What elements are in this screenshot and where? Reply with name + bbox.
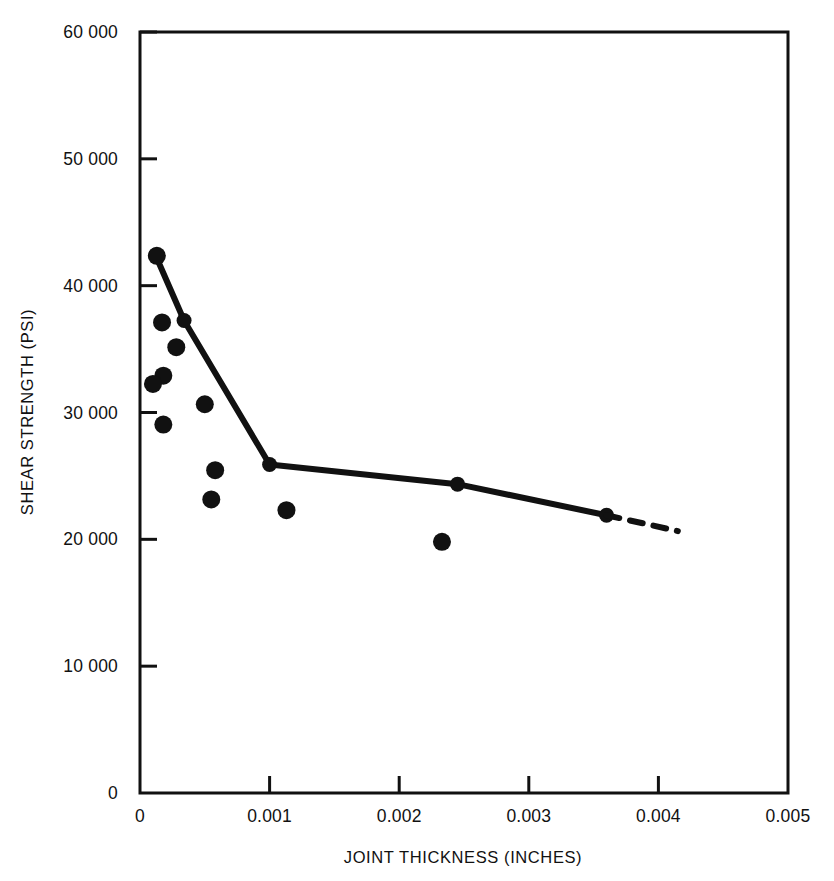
y-axis-title: SHEAR STRENGTH (PSI) bbox=[18, 309, 36, 515]
x-tick-label: 0.004 bbox=[636, 806, 681, 826]
shear-strength-vs-joint-thickness-chart: 010 00020 00030 00040 00050 00060 000 00… bbox=[0, 0, 834, 881]
data-point-marker bbox=[144, 375, 162, 393]
y-tick-label: 0 bbox=[108, 783, 118, 803]
y-tick-label: 20 000 bbox=[63, 529, 118, 549]
x-tick-label: 0.001 bbox=[247, 806, 292, 826]
data-point-marker bbox=[277, 501, 295, 519]
x-tick-label: 0 bbox=[135, 806, 145, 826]
x-tick-label: 0.005 bbox=[766, 806, 811, 826]
y-tick-label: 50 000 bbox=[63, 149, 118, 169]
data-point-marker bbox=[202, 490, 220, 508]
y-tick-label: 10 000 bbox=[63, 656, 118, 676]
data-point-marker bbox=[153, 313, 171, 331]
y-tick-label: 60 000 bbox=[63, 22, 118, 42]
x-tick-label: 0.003 bbox=[506, 806, 551, 826]
data-point-marker bbox=[206, 461, 224, 479]
x-tick-label: 0.002 bbox=[377, 806, 422, 826]
y-tick-label: 40 000 bbox=[63, 276, 118, 296]
data-point-marker bbox=[148, 247, 166, 265]
trend-vertex-marker bbox=[450, 477, 465, 492]
x-axis-title: JOINT THICKNESS (INCHES) bbox=[344, 848, 582, 866]
chart-background bbox=[0, 0, 834, 881]
trend-vertex-marker bbox=[177, 313, 192, 328]
data-point-marker bbox=[167, 338, 185, 356]
y-tick-label: 30 000 bbox=[63, 403, 118, 423]
data-point-marker bbox=[196, 395, 214, 413]
data-point-marker bbox=[154, 416, 172, 434]
chart-figure: 010 00020 00030 00040 00050 00060 000 00… bbox=[0, 0, 834, 881]
trend-vertex-marker bbox=[262, 457, 277, 472]
data-point-marker bbox=[433, 533, 451, 551]
